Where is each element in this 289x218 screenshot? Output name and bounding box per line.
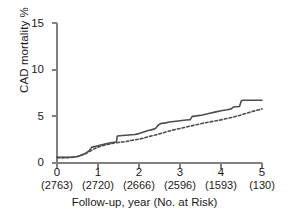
x-tick-label-5: 5 (238, 166, 286, 179)
x-axis-label: Follow-up, year (No. at Risk) (0, 196, 289, 208)
at-risk-5: (130) (238, 179, 286, 192)
series-solid-line (57, 100, 262, 157)
y-axis-tick-marks (52, 23, 57, 163)
series-dashed-line (57, 109, 262, 158)
axis-lines (57, 23, 262, 163)
cad-mortality-chart: CAD mortality % 15 10 5 0 (0, 0, 289, 218)
x-tick-col-5: 5 (130) (238, 166, 286, 192)
